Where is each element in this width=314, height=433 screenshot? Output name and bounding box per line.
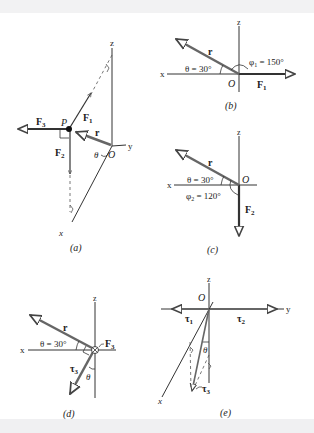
theta-label: θ [94,150,99,160]
z-axis-label: z [237,18,241,27]
panel-d: z x r τ3 F3 θ = 30° θ (d) [20,294,116,420]
x-axis-label: x [167,180,172,190]
f3-label: F3 [105,338,115,351]
r-label: r [95,127,100,138]
leader-line [99,344,104,347]
theta-value: θ = 30° [40,339,67,349]
theta-arc [221,176,224,185]
panel-a: z y x F1 F2 F3 r P θ O (a) [18,38,133,254]
f1-vector [69,93,91,129]
f2-label: F2 [55,147,65,160]
origin-label: O [228,78,235,89]
theta-arc [76,341,79,350]
f2-label: F2 [245,204,255,217]
r-label: r [208,157,213,168]
tick-mark [70,205,73,213]
y-axis-label: y [128,141,133,151]
x-axis-label: x [157,396,162,406]
tau3-label: τ3 [70,363,79,376]
x-axis-line [72,146,112,222]
panel-c-caption: (c) [207,244,219,256]
z-axis-label: z [237,128,241,137]
phi-value: φ2 = 120° [186,191,221,202]
theta-arc [220,65,223,74]
r-label: r [63,322,68,333]
torque-figure: z y x F1 F2 F3 r P θ O (a) [0,0,314,433]
panel-b: z x F1 r θ = 30° φ1 = 150° O (b) [160,18,295,112]
tau3-label: τ3 [202,383,211,396]
origin-label: O [108,149,115,160]
x-axis-label: x [58,228,63,238]
theta-value: θ = 30° [187,175,214,185]
f1-label: F1 [83,112,93,125]
phi-value: φ1 = 150° [249,57,284,68]
theta-label: θ [203,345,208,355]
theta-arc-2 [89,367,95,369]
r-vector [76,132,111,145]
f1-label: F1 [257,79,267,92]
dashed-line-f1 [90,55,112,96]
panel-a-caption: (a) [70,242,82,254]
theta-label: θ [86,372,91,382]
tick-mark [106,64,109,72]
f3-label: F3 [36,116,46,129]
theta-value: θ = 30° [185,64,212,74]
y-axis-line [112,145,126,146]
x-axis-label: x [20,345,25,355]
y-axis-label: y [286,304,291,314]
r-label: r [208,46,213,57]
dashed-line [190,342,191,389]
panel-d-caption: (d) [63,408,75,420]
panel-c: z x F2 r θ = 30° φ2 = 120° O (c) [167,128,257,256]
tau1-label: τ1 [185,313,194,326]
tau2-label: τ2 [237,313,246,326]
panel-b-caption: (b) [225,100,237,112]
origin-label: O [242,174,249,185]
z-axis-label: z [93,294,97,303]
panel-e: z y τ1 τ2 x θ τ3 O (e) [157,275,291,419]
panel-e-caption: (e) [220,407,232,419]
x-axis-label: x [160,69,165,79]
point-p-label: P [60,117,67,128]
z-axis-label: z [207,275,211,284]
origin-label: O [198,292,205,303]
z-axis-label: z [110,38,114,48]
